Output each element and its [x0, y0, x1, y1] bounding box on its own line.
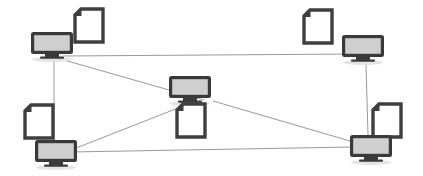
document-icon — [174, 102, 208, 140]
monitor-icon — [33, 138, 79, 170]
document-icon — [22, 103, 56, 141]
nodes-layer — [0, 0, 423, 176]
monitor-icon — [29, 30, 75, 62]
monitor-icon — [340, 33, 386, 65]
document-icon — [72, 7, 106, 45]
document-icon — [301, 8, 335, 46]
network-diagram — [0, 0, 423, 176]
monitor-icon — [348, 133, 394, 165]
